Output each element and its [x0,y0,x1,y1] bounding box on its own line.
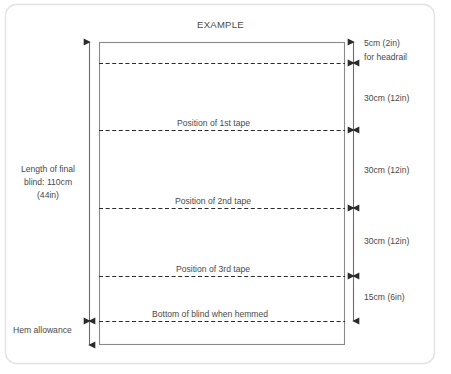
right-dimension-label-3: 30cm (12in) [364,165,409,176]
hem-allowance-label: Hem allowance [13,325,72,336]
left-dimension-label-line1: Length of final [10,163,86,176]
left-dimension-label: Length of final blind: 110cm (44in) [10,163,86,202]
right-dimension-label-5: 15cm (6in) [364,292,405,303]
right-dimension-note-1: for headrail [364,52,407,63]
inner-label-tape-2: Position of 2nd tape [175,196,251,207]
diagram-card: EXAMPLE Length of final blind: 110cm (44… [0,0,451,374]
inner-label-tape-3: Position of 3rd tape [176,264,250,275]
blind-rectangle [100,43,345,345]
left-dimension-label-line2: blind: 110cm [10,176,86,189]
right-dimension-label-1: 5cm (2in) [364,38,400,49]
left-dimension-label-line3: (44in) [10,189,86,202]
inner-label-hem: Bottom of blind when hemmed [152,309,268,320]
diagram-title: EXAMPLE [197,19,244,31]
right-dimension-label-4: 30cm (12in) [364,236,409,247]
inner-label-tape-1: Position of 1st tape [177,118,250,129]
right-dimension-label-2: 30cm (12in) [364,93,409,104]
